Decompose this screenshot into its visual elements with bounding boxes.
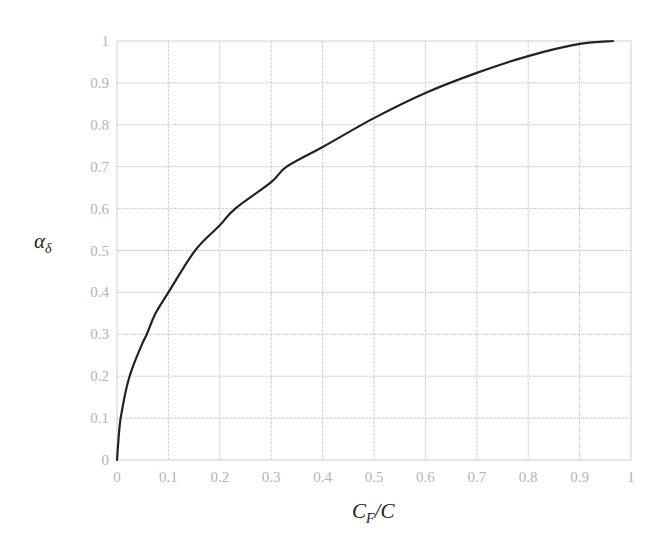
x-tick-label: 0.6 [416,469,435,485]
x-tick-label: 1 [627,469,635,485]
y-tick-label: 0.5 [90,243,109,259]
y-tick-label: 0.6 [90,201,109,217]
chart: 00.10.20.30.40.50.60.70.80.91 00.10.20.3… [0,0,670,543]
y-axis-label-sub: δ [45,241,52,256]
x-tick-labels: 00.10.20.30.40.50.60.70.80.91 [113,469,635,485]
y-tick-labels: 00.10.20.30.40.50.60.70.80.91 [90,33,109,468]
x-axis-label-sub: F [365,511,375,526]
x-tick-label: 0.3 [262,469,281,485]
y-tick-label: 0.7 [90,159,109,175]
x-tick-label: 0.4 [313,469,332,485]
y-tick-label: 1 [102,33,110,49]
x-tick-label: 0.7 [467,469,486,485]
x-tick-label: 0.2 [210,469,229,485]
y-tick-label: 0.1 [90,410,109,426]
x-tick-label: 0.5 [365,469,384,485]
x-tick-label: 0.8 [519,469,538,485]
x-tick-label: 0.9 [570,469,589,485]
y-tick-label: 0.3 [90,326,109,342]
x-axis-label-main: C [352,499,367,523]
y-tick-label: 0.2 [90,368,109,384]
y-tick-label: 0.9 [90,75,109,91]
y-tick-label: 0.8 [90,117,109,133]
x-axis-label: CF/C [352,499,395,526]
x-axis-label-rest: /C [374,499,396,523]
y-tick-label: 0.4 [90,284,109,300]
x-tick-label: 0 [113,469,121,485]
y-tick-label: 0 [102,452,110,468]
x-tick-label: 0.1 [159,469,178,485]
y-axis-label: αδ [34,229,52,256]
